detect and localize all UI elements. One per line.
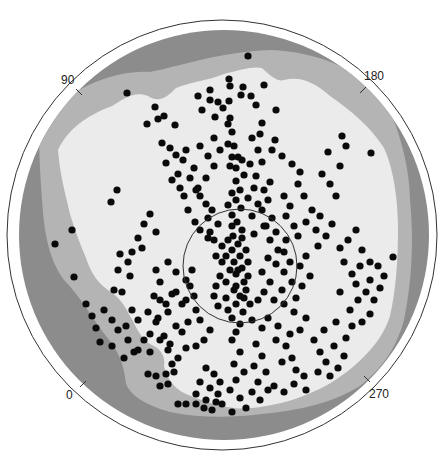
data-point <box>228 128 235 135</box>
data-point <box>143 120 150 127</box>
data-point <box>320 326 327 333</box>
data-point <box>256 396 263 403</box>
data-point <box>358 318 365 325</box>
data-point <box>219 104 226 111</box>
data-point <box>244 52 251 59</box>
data-point <box>302 218 309 225</box>
data-point <box>186 174 193 181</box>
data-point <box>282 212 289 219</box>
data-point <box>238 226 245 233</box>
data-point <box>254 296 261 303</box>
data-point <box>124 336 131 343</box>
data-point <box>282 236 289 243</box>
data-point <box>240 171 247 178</box>
data-point <box>202 174 209 181</box>
data-point <box>238 234 245 241</box>
data-point <box>210 162 217 169</box>
data-point <box>162 159 169 166</box>
data-point <box>286 330 293 337</box>
data-point <box>232 196 239 203</box>
data-point <box>176 184 183 191</box>
data-point <box>300 372 307 379</box>
data-point <box>232 328 239 335</box>
data-point <box>366 276 373 283</box>
data-point <box>192 400 199 407</box>
data-point <box>332 318 339 325</box>
data-point <box>120 354 127 361</box>
data-point <box>258 268 265 275</box>
data-point <box>389 253 396 260</box>
data-point <box>228 211 235 218</box>
data-point <box>168 360 175 367</box>
data-point <box>224 236 231 243</box>
data-point <box>302 252 309 259</box>
data-point <box>322 232 329 239</box>
data-point <box>234 240 241 247</box>
data-point <box>237 91 244 98</box>
data-point <box>326 180 333 187</box>
data-point <box>290 308 297 315</box>
data-point <box>171 121 178 128</box>
data-point <box>352 280 359 287</box>
data-point <box>260 81 267 88</box>
data-point <box>190 164 197 171</box>
data-point <box>244 272 251 279</box>
data-point <box>224 201 231 208</box>
data-point <box>218 258 225 265</box>
data-point <box>232 282 239 289</box>
data-point <box>228 336 235 343</box>
data-point <box>278 286 285 293</box>
data-point <box>250 362 257 369</box>
data-point <box>138 244 145 251</box>
data-point <box>180 192 187 199</box>
data-point <box>282 342 289 349</box>
data-point <box>204 234 211 241</box>
data-point <box>264 254 271 261</box>
data-point <box>184 318 191 325</box>
data-point <box>278 152 285 159</box>
data-point <box>152 318 159 325</box>
data-point <box>250 230 257 237</box>
data-point <box>146 210 153 217</box>
data-point <box>342 142 349 149</box>
data-point <box>252 101 259 108</box>
data-point <box>290 380 297 387</box>
data-point <box>192 342 199 349</box>
data-point <box>266 236 273 243</box>
data-point <box>191 218 198 225</box>
data-point <box>68 226 75 233</box>
data-point <box>272 106 279 113</box>
data-point <box>152 266 159 273</box>
data-point <box>330 342 337 349</box>
data-point <box>166 144 173 151</box>
data-point <box>216 146 223 153</box>
data-point <box>258 119 265 126</box>
data-point <box>326 372 333 379</box>
data-point <box>280 388 287 395</box>
data-point <box>239 83 246 90</box>
angle-label-0: 0 <box>66 389 73 401</box>
data-point <box>260 222 267 229</box>
data-point <box>216 378 223 385</box>
data-point <box>198 106 205 113</box>
data-point <box>258 158 265 165</box>
data-point <box>272 228 279 235</box>
data-point <box>196 378 203 385</box>
data-point <box>228 246 235 253</box>
data-point <box>244 194 251 201</box>
data-point <box>222 278 229 285</box>
data-point <box>140 220 147 227</box>
data-point <box>128 248 135 255</box>
data-point <box>174 400 181 407</box>
angle-label-270: 270 <box>369 388 389 400</box>
data-point <box>230 360 237 367</box>
angle-label-180: 180 <box>364 70 384 82</box>
data-point <box>144 308 151 315</box>
data-point <box>252 172 259 179</box>
data-point <box>258 352 265 359</box>
data-point <box>225 97 232 104</box>
data-point <box>108 342 115 349</box>
data-point <box>232 300 239 307</box>
data-point <box>216 272 223 279</box>
data-point <box>236 320 243 327</box>
